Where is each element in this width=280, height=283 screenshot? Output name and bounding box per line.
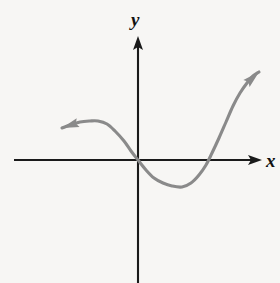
x-axis-label: x — [266, 151, 276, 170]
function-curve — [62, 72, 259, 187]
y-axis-label: y — [131, 10, 139, 29]
coordinate-graph-figure — [0, 0, 280, 283]
